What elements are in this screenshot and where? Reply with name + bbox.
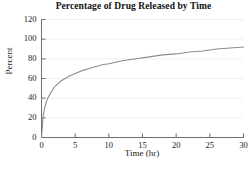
chart-container: Percentage of Drug Released by Time Perc… (0, 0, 251, 171)
x-tick-label: 20 (166, 140, 186, 150)
y-tick-label: 80 (15, 53, 37, 63)
x-tick-label: 15 (133, 140, 153, 150)
grid-lines (42, 20, 244, 118)
x-tick-label: 10 (99, 140, 119, 150)
y-tick-label: 40 (15, 92, 37, 102)
x-tick-label: 0 (32, 140, 52, 150)
x-tick-label: 25 (200, 140, 220, 150)
y-tick-label: 100 (15, 33, 37, 43)
y-tick-label: 120 (15, 14, 37, 24)
data-series (42, 47, 244, 137)
x-tick-label: 30 (234, 140, 252, 150)
y-tick-label: 60 (15, 73, 37, 83)
x-tick-label: 5 (65, 140, 85, 150)
y-tick-label: 20 (15, 112, 37, 122)
series-line-0 (42, 47, 244, 137)
